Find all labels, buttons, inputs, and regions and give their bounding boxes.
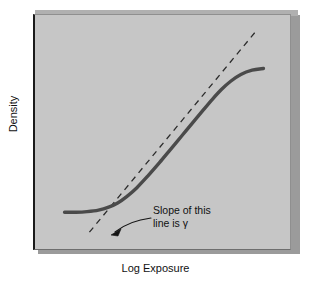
y-axis-label: Density <box>7 79 19 149</box>
figure-characteristic-curve: Density Log Exposure Slope of this line … <box>0 0 311 284</box>
slope-annotation: Slope of this line is γ <box>153 204 211 229</box>
slope-annotation-line2: line is γ <box>153 217 211 230</box>
characteristic-curve <box>65 69 264 213</box>
annotation-arrowhead <box>111 229 121 236</box>
tangent-dashed-line <box>89 30 256 232</box>
slope-annotation-line1: Slope of this <box>153 204 211 217</box>
x-axis-label: Log Exposure <box>0 262 311 274</box>
